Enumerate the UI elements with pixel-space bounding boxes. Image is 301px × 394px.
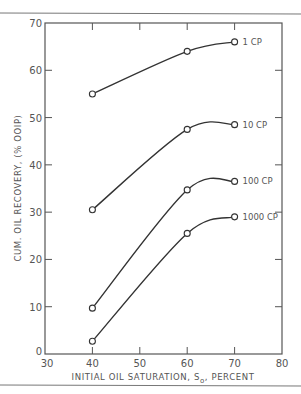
y-tick-label: 70 <box>29 18 42 29</box>
data-point <box>89 207 95 213</box>
series-label: 100 CP <box>243 176 273 186</box>
series-label: 1 CP <box>243 37 262 47</box>
chart: 304050607080010203040506070 1 CP10 CP100… <box>0 0 301 394</box>
bottom-rule <box>0 385 301 386</box>
data-point <box>232 39 238 45</box>
data-point <box>89 305 95 311</box>
x-tick-label: 70 <box>228 358 241 369</box>
series-labels: 1 CP10 CP100 CP1000 CP <box>243 37 278 222</box>
data-point <box>232 214 238 220</box>
x-tick-label: 60 <box>181 358 194 369</box>
y-tick-label: 40 <box>29 160 42 171</box>
y-axis-title: CUM. OIL RECOVERY, (% OOIP) <box>13 114 23 261</box>
y-tick-label: 50 <box>29 113 42 124</box>
series-line <box>92 42 234 94</box>
y-tick-label: 60 <box>29 65 42 76</box>
y-tick-label: 0 <box>36 346 42 357</box>
data-point <box>184 126 190 132</box>
data-point <box>184 187 190 193</box>
top-rule <box>0 13 301 14</box>
series-line <box>92 178 234 308</box>
data-point <box>89 91 95 97</box>
series-line <box>92 122 234 210</box>
data-point <box>232 178 238 184</box>
x-axis-title-main: INITIAL OIL SATURATION, S <box>72 372 200 382</box>
x-axis-title: INITIAL OIL SATURATION, So, PERCENT <box>72 372 255 385</box>
x-tick-label: 30 <box>41 358 54 369</box>
series-label: 10 CP <box>243 120 268 130</box>
data-point <box>184 48 190 54</box>
series-label: 1000 CP <box>243 212 278 222</box>
x-tick-label: 80 <box>276 358 289 369</box>
x-tick-label: 40 <box>86 358 99 369</box>
y-tick-label: 10 <box>29 302 42 313</box>
data-point <box>89 338 95 344</box>
data-point <box>232 122 238 128</box>
x-axis-title-suffix: , PERCENT <box>205 372 255 382</box>
curves <box>92 42 234 341</box>
axis-ticks <box>45 23 282 354</box>
tick-labels: 304050607080010203040506070 <box>29 18 288 369</box>
x-tick-label: 50 <box>133 358 146 369</box>
plot-frame <box>45 23 282 354</box>
y-tick-label: 30 <box>29 207 42 218</box>
y-tick-label: 20 <box>29 254 42 265</box>
data-point <box>184 230 190 236</box>
